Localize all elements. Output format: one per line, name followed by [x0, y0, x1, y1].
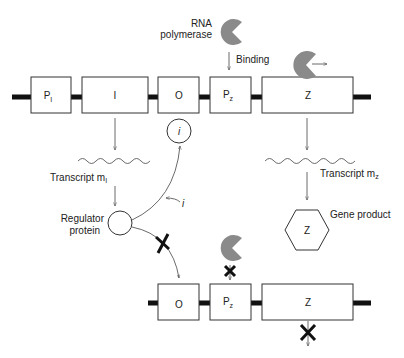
- blocked-cross-icon: [156, 234, 169, 253]
- rna-polymerase-label-line1: RNA: [191, 18, 212, 29]
- bottom-gene-box-o: O: [158, 284, 199, 320]
- bottom-gene-box-pz: Pz: [210, 284, 251, 320]
- gene-box-pi: PI: [31, 77, 71, 113]
- regulator-to-operator-arrow: [132, 227, 179, 278]
- gene-box-i: I: [82, 77, 148, 113]
- bottom-dna-strand: O Pz Z: [148, 284, 371, 320]
- gene-product-symbol: Z: [304, 225, 310, 236]
- regulator-label-line2: protein: [69, 225, 100, 236]
- rna-polymerase-label-line2: polymerase: [160, 29, 212, 40]
- gene-label: I: [114, 90, 117, 101]
- top-dna-strand: PI I O Pz Z: [12, 77, 371, 113]
- regulator-protein-icon: [108, 211, 132, 235]
- binding-label: Binding: [236, 54, 269, 65]
- gene-label: O: [175, 90, 183, 101]
- polymerase-icon: [221, 235, 242, 261]
- gene-box-o: O: [158, 77, 199, 113]
- transcript-mz-label: Transcript mz: [320, 168, 379, 180]
- transcript-mi-wave: [78, 159, 150, 164]
- gene-subscript: I: [50, 96, 52, 103]
- gene-box-z: Z: [262, 77, 353, 113]
- regulator-label-line1: Regulator: [61, 213, 105, 224]
- gene-label: Z: [305, 297, 311, 308]
- regulator-to-inducer-arrow: [132, 146, 180, 220]
- transcript-mi-label: Transcript mI: [50, 172, 107, 184]
- polymerase-icon: [293, 51, 316, 79]
- lac-operon-diagram: PI I O Pz Z RNA polymerase Binding: [0, 0, 404, 358]
- gene-label: O: [175, 299, 183, 310]
- gene-subscript: z: [230, 302, 234, 309]
- polymerase-icon: [221, 19, 242, 45]
- inducer-free-label: i: [182, 198, 185, 209]
- rna-polymerase-transcribing: [293, 51, 327, 79]
- inducer-binding-arrow: [166, 198, 180, 202]
- rna-polymerase-blocked: [221, 235, 242, 261]
- gene-label: Z: [305, 90, 311, 101]
- gene-product-label: Gene product: [330, 209, 391, 220]
- bottom-gene-box-z: Z: [262, 284, 353, 320]
- transcript-mz-wave: [265, 159, 355, 164]
- gene-box-pz: Pz: [210, 77, 251, 113]
- gene-subscript: z: [230, 95, 234, 102]
- rna-polymerase-free: RNA polymerase: [160, 18, 242, 45]
